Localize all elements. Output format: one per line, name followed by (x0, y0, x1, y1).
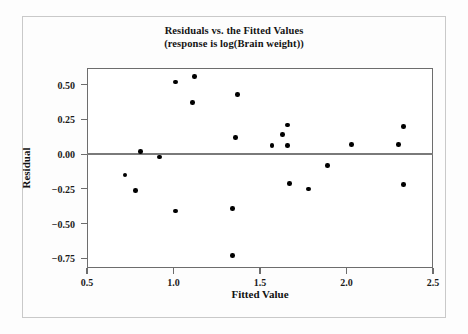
scatter-point (190, 100, 195, 105)
scatter-point (396, 142, 401, 147)
chart-title: Residuals vs. the Fitted Values (respons… (0, 24, 468, 50)
scatter-point (138, 149, 143, 154)
scatter-point (235, 92, 240, 97)
y-axis-title: Residual (20, 148, 32, 189)
scatter-point (133, 188, 138, 193)
x-tick-mark (259, 268, 260, 274)
scatter-point (325, 163, 330, 168)
scatter-point (401, 124, 406, 129)
x-tick-label: 1.5 (240, 277, 280, 288)
scatter-point (349, 142, 354, 147)
y-tick-label: −0.25 (29, 183, 75, 194)
scatter-point (285, 143, 290, 148)
scatter-point (287, 181, 292, 186)
scatter-point (285, 123, 290, 128)
x-tick-mark (432, 268, 433, 274)
scatter-point (401, 182, 406, 187)
y-tick-label: −0.50 (29, 218, 75, 229)
y-tick-label: −0.75 (29, 253, 75, 264)
y-tick-mark (81, 223, 87, 224)
x-axis-title: Fitted Value (87, 288, 433, 300)
x-tick-label: 0.5 (67, 277, 107, 288)
x-tick-mark (346, 268, 347, 274)
y-tick-mark (81, 188, 87, 189)
scatter-point (280, 132, 285, 137)
scatter-point (173, 80, 178, 85)
x-tick-label: 1.0 (154, 277, 194, 288)
plot-area (87, 68, 433, 268)
chart-title-line-1: Residuals vs. the Fitted Values (0, 24, 468, 37)
x-tick-label: 2.5 (413, 277, 453, 288)
scatter-point (230, 206, 235, 211)
y-tick-mark (81, 84, 87, 85)
residual-plot-figure: Residuals vs. the Fitted Values (respons… (0, 0, 468, 334)
y-tick-label: 0.25 (29, 114, 75, 125)
scatter-point (306, 187, 311, 192)
y-tick-mark (81, 154, 87, 155)
x-tick-mark (86, 268, 87, 274)
x-tick-mark (173, 268, 174, 274)
y-tick-label: 0.50 (29, 79, 75, 90)
y-tick-mark (81, 119, 87, 120)
x-tick-label: 2.0 (327, 277, 367, 288)
y-tick-label: 0.00 (29, 149, 75, 160)
scatter-point (157, 155, 162, 160)
scatter-point (233, 135, 238, 140)
chart-title-subtitle: (response is log(Brain weight)) (0, 37, 468, 50)
scatter-point (230, 253, 235, 258)
scatter-point (173, 209, 178, 214)
y-tick-mark (81, 258, 87, 259)
scatter-point (192, 74, 197, 79)
